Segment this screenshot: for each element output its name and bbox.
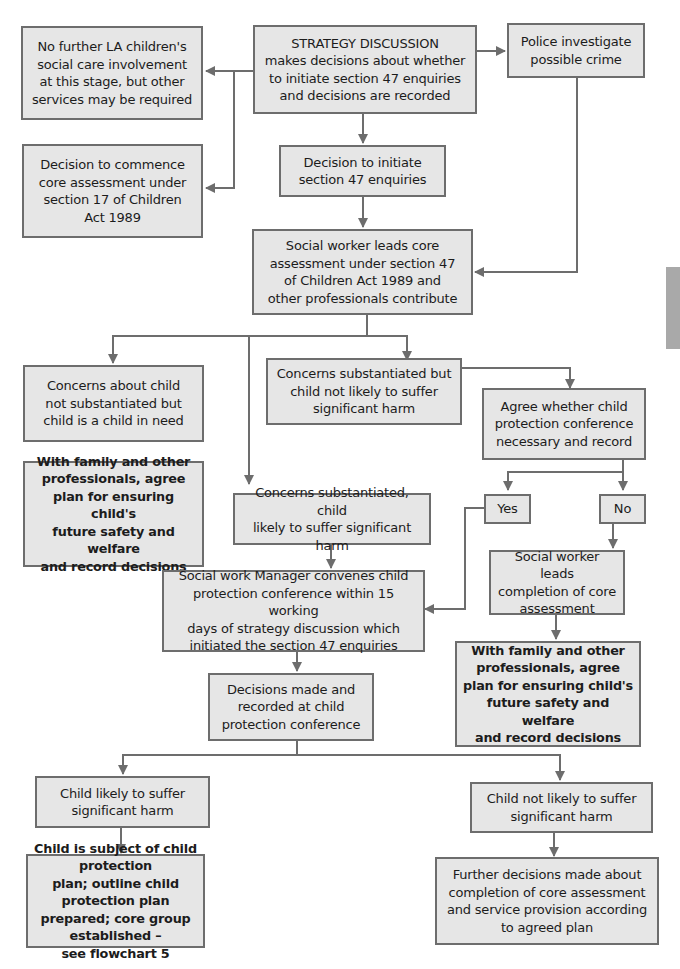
further-decisions-box: Further decisions made about completion … bbox=[435, 857, 659, 945]
box-label: Child is subject of child protection pla… bbox=[34, 840, 197, 963]
substantiated-not-likely-box: Concerns substantiated but child not lik… bbox=[266, 358, 462, 425]
no-further-involvement-box: No further LA children's social care inv… bbox=[21, 26, 203, 120]
box-label: Police investigate possible crime bbox=[521, 33, 632, 68]
page-side-tab bbox=[666, 267, 680, 349]
manager-convenes-box: Social work Manager convenes child prote… bbox=[162, 570, 425, 652]
box-label: Social work Manager convenes child prote… bbox=[170, 567, 417, 655]
box-label: Child not likely to suffer significant h… bbox=[487, 790, 637, 825]
core-assessment-s17-box: Decision to commence core assessment und… bbox=[22, 144, 203, 238]
no-box: No bbox=[599, 494, 646, 524]
box-label: Concerns substantiated but child not lik… bbox=[277, 365, 452, 418]
initiate-s47-box: Decision to initiate section 47 enquirie… bbox=[279, 145, 446, 197]
not-substantiated-box: Concerns about child not substantiated b… bbox=[23, 365, 204, 442]
box-label: STRATEGY DISCUSSION makes decisions abou… bbox=[265, 35, 465, 105]
box-label: Decision to initiate section 47 enquirie… bbox=[299, 154, 427, 189]
box-label: Social worker leads core assessment unde… bbox=[268, 237, 457, 307]
substantiated-likely-box: Concerns substantiated, child likely to … bbox=[233, 493, 431, 545]
decisions-conference-box: Decisions made and recorded at child pro… bbox=[208, 673, 374, 741]
box-label: Further decisions made about completion … bbox=[447, 866, 647, 936]
plan-right-box: With family and other professionals, agr… bbox=[455, 641, 641, 747]
box-label: Yes bbox=[497, 500, 517, 518]
box-label: No bbox=[614, 500, 631, 518]
sw-leads-core-assessment-box: Social worker leads core assessment unde… bbox=[252, 229, 473, 315]
box-label: Child likely to suffer significant harm bbox=[60, 785, 185, 820]
agree-conference-box: Agree whether child protection conferenc… bbox=[482, 388, 646, 460]
box-label: With family and other professionals, agr… bbox=[31, 453, 196, 576]
box-label: Concerns about child not substantiated b… bbox=[43, 377, 183, 430]
flowchart-canvas: STRATEGY DISCUSSION makes decisions abou… bbox=[0, 0, 680, 969]
box-label: Decisions made and recorded at child pro… bbox=[222, 681, 361, 734]
box-label: Social worker leads completion of core a… bbox=[497, 548, 617, 618]
strategy-discussion-box: STRATEGY DISCUSSION makes decisions abou… bbox=[253, 25, 477, 114]
box-label: Decision to commence core assessment und… bbox=[39, 156, 186, 226]
plan-left-box: With family and other professionals, agr… bbox=[23, 461, 204, 567]
likely-harm-box: Child likely to suffer significant harm bbox=[35, 776, 210, 828]
box-label: Concerns substantiated, child likely to … bbox=[241, 484, 423, 554]
police-investigate-box: Police investigate possible crime bbox=[507, 23, 645, 78]
not-likely-harm-box: Child not likely to suffer significant h… bbox=[470, 782, 653, 833]
box-label: No further LA children's social care inv… bbox=[32, 38, 192, 108]
yes-box: Yes bbox=[484, 494, 531, 524]
child-protection-plan-box: Child is subject of child protection pla… bbox=[26, 854, 205, 948]
sw-completion-box: Social worker leads completion of core a… bbox=[489, 550, 625, 615]
box-label: With family and other professionals, agr… bbox=[463, 642, 633, 747]
box-label: Agree whether child protection conferenc… bbox=[495, 398, 634, 451]
